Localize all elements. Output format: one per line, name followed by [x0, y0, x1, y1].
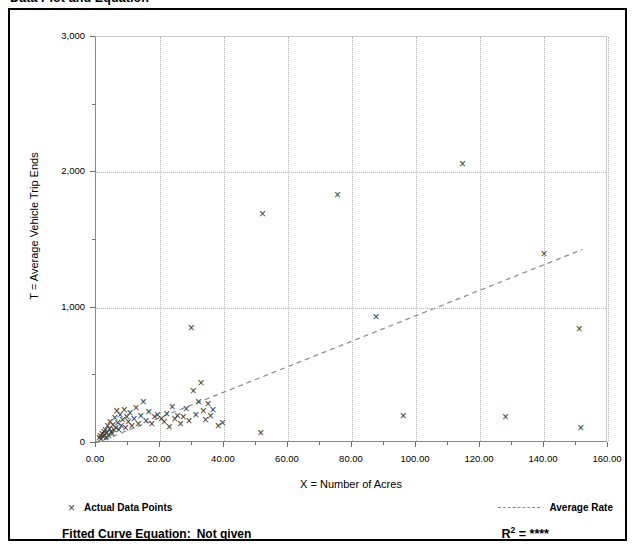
- x-axis-minor-tick: [447, 442, 448, 445]
- gridline-vertical: [608, 37, 609, 441]
- data-point-marker: [575, 325, 584, 334]
- gridline-vertical: [480, 37, 481, 441]
- data-point-marker: [196, 379, 205, 388]
- data-point-marker: [199, 407, 208, 416]
- y-axis-tick: [90, 36, 95, 37]
- gridline-vertical: [352, 37, 353, 441]
- gridline-horizontal: [96, 172, 606, 173]
- x-axis-tick: [351, 442, 352, 447]
- data-point-marker: [110, 414, 119, 423]
- y-axis-title: T = Average Vehicle Trip Ends: [28, 116, 40, 336]
- data-point-marker: [157, 415, 166, 424]
- data-point-marker: [258, 210, 267, 219]
- data-point-marker: [118, 416, 127, 425]
- data-point-marker: [96, 432, 105, 441]
- equation-value: Not given: [197, 527, 252, 541]
- legend-actual-data-points: × Actual Data Points: [68, 502, 172, 513]
- x-axis-minor-tick: [511, 442, 512, 445]
- y-axis-tick-label: 3,000: [41, 30, 85, 41]
- fitted-curve-equation: Fitted Curve Equation:Not given: [62, 527, 251, 541]
- data-point-marker: [179, 413, 188, 422]
- y-axis-tick-label: 2,000: [41, 165, 85, 176]
- data-point-marker: [101, 434, 110, 443]
- legend-average-rate: Average Rate: [498, 502, 613, 513]
- x-axis-minor-tick: [127, 442, 128, 445]
- data-point-marker: [206, 412, 215, 421]
- x-axis-tick-label: 0.00: [65, 453, 125, 464]
- data-point-marker: [108, 430, 117, 439]
- data-point-marker: [113, 419, 122, 428]
- x-axis-tick: [159, 442, 160, 447]
- gridline-vertical: [416, 37, 417, 441]
- x-axis-minor-tick: [319, 442, 320, 445]
- data-point-marker: [120, 406, 129, 415]
- data-point-marker: [111, 424, 120, 433]
- legend-label-average-rate: Average Rate: [549, 502, 613, 513]
- cross-marker-icon: ×: [68, 503, 75, 513]
- y-axis-tick: [90, 442, 95, 443]
- data-point-marker: [97, 435, 106, 444]
- r2-equals: =: [519, 527, 526, 541]
- x-axis-tick: [287, 442, 288, 447]
- x-axis-tick-label: 140.00: [513, 453, 573, 464]
- data-point-marker: [101, 426, 110, 435]
- data-point-marker: [122, 413, 131, 422]
- data-point-marker: [130, 415, 139, 424]
- data-point-marker: [134, 420, 143, 429]
- data-point-marker: [125, 409, 134, 418]
- data-point-marker: [127, 422, 136, 431]
- data-point-marker: [189, 387, 198, 396]
- x-axis-tick-label: 40.00: [193, 453, 253, 464]
- data-point-marker: [114, 426, 123, 435]
- data-point-marker: [176, 420, 185, 429]
- x-axis-minor-tick: [383, 442, 384, 445]
- data-point-marker: [187, 324, 196, 333]
- x-axis-tick: [479, 442, 480, 447]
- y-axis-tick-label: 1,000: [41, 301, 85, 312]
- data-point-marker: [103, 422, 112, 431]
- data-point-marker: [173, 412, 182, 421]
- chart-figure: T = Average Vehicle Trip Ends X = Number…: [0, 0, 637, 549]
- data-point-marker: [165, 423, 174, 432]
- dashed-line-icon: [498, 507, 540, 508]
- data-point-marker: [458, 160, 467, 169]
- gridline-vertical: [288, 37, 289, 441]
- data-point-marker: [102, 429, 111, 438]
- data-point-marker: [501, 413, 510, 422]
- x-axis-minor-tick: [255, 442, 256, 445]
- data-point-marker: [218, 419, 227, 428]
- y-axis-tick-label: 0: [41, 436, 85, 447]
- gridline-vertical: [224, 37, 225, 441]
- data-point-marker: [121, 424, 130, 433]
- r2-stars: ****: [530, 527, 549, 541]
- equation-label: Fitted Curve Equation:: [62, 527, 191, 541]
- data-point-marker: [117, 422, 126, 431]
- data-point-marker: [191, 411, 200, 420]
- data-point-marker: [109, 426, 118, 435]
- x-axis-tick-label: 160.00: [577, 453, 637, 464]
- data-point-marker: [185, 417, 194, 426]
- data-point-marker: [112, 407, 121, 416]
- data-point-marker: [170, 415, 179, 424]
- r-squared-value: R2 = ****: [501, 525, 549, 541]
- y-axis-tick: [90, 171, 95, 172]
- data-point-marker: [160, 418, 169, 427]
- y-axis-minor-tick: [92, 374, 95, 375]
- x-axis-tick: [415, 442, 416, 447]
- data-point-marker: [108, 421, 117, 430]
- x-axis-title: X = Number of Acres: [95, 478, 607, 490]
- data-point-marker: [147, 420, 156, 429]
- data-point-marker: [124, 418, 133, 427]
- x-axis-minor-tick: [575, 442, 576, 445]
- data-point-marker: [141, 417, 150, 426]
- data-point-marker: [372, 313, 381, 322]
- data-point-marker: [256, 429, 265, 438]
- gridline-vertical: [160, 37, 161, 441]
- x-axis-minor-tick: [191, 442, 192, 445]
- data-point-marker: [139, 398, 148, 407]
- data-point-marker: [204, 400, 213, 409]
- data-point-marker: [182, 405, 191, 414]
- legend-label-actual-data-points: Actual Data Points: [84, 502, 172, 513]
- x-axis-tick: [95, 442, 96, 447]
- data-point-marker: [214, 422, 223, 431]
